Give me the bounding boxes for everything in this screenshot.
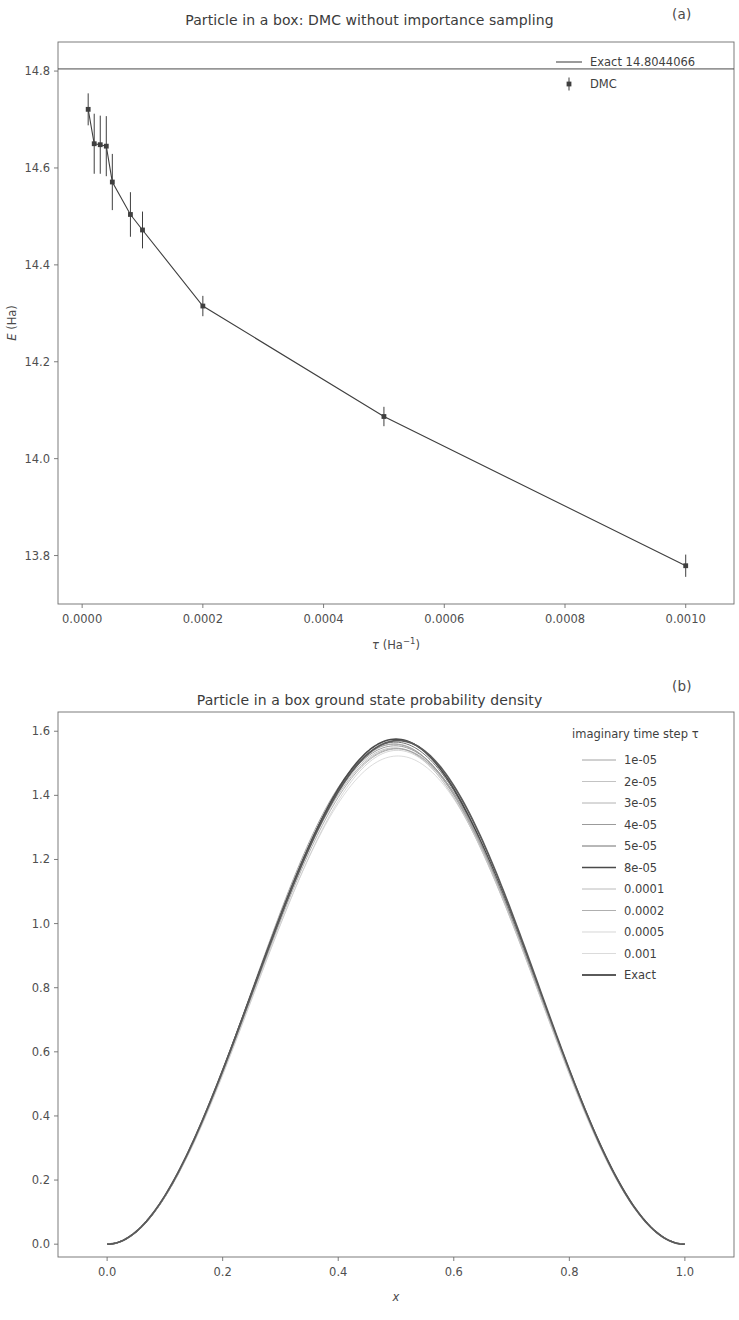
panel-b-curve — [107, 741, 685, 1245]
panel-b-xtick-label: 0.6 — [445, 1265, 463, 1279]
panel-b-curve — [107, 739, 685, 1244]
panel-b-legend-item-label: 8e-05 — [624, 861, 657, 875]
panel-b-legend-item-label: 3e-05 — [624, 796, 657, 810]
panel-b-curve — [107, 744, 685, 1244]
panel-b-ytick-label: 0.8 — [32, 981, 50, 995]
panel-a-xtick-label: 0.0002 — [183, 612, 223, 626]
panel-b-legend-title: imaginary time step τ — [572, 727, 699, 741]
panel-a-datapoint — [104, 116, 109, 176]
panel-b-legend-item-label: Exact — [624, 968, 656, 982]
panel-a-xtick-label: 0.0000 — [62, 612, 102, 626]
panel-b-ytick-label: 1.6 — [32, 724, 50, 738]
panel-b-legend: imaginary time step τ1e-052e-053e-054e-0… — [572, 727, 699, 982]
panel-b-legend-item-label: 0.0005 — [624, 925, 664, 939]
figure-container: (a) Particle in a box: DMC without impor… — [0, 0, 739, 1320]
panel-a-plot: 0.00000.00020.00040.00060.00080.001014.8… — [0, 0, 739, 660]
panel-b-xtick-label: 0.2 — [214, 1265, 232, 1279]
panel-b-ytick-label: 0.6 — [32, 1045, 50, 1059]
panel-b-ytick-label: 0.0 — [32, 1237, 50, 1251]
panel-a-ytick-label: 14.2 — [24, 355, 50, 369]
panel-a-datapoint — [128, 192, 133, 237]
panel-a-yaxis-label: E (Ha) — [5, 305, 19, 341]
panel-b-xtick-label: 1.0 — [676, 1265, 694, 1279]
panel-b-legend-item-label: 0.0001 — [624, 882, 664, 896]
panel-a-datapoint — [683, 555, 688, 577]
panel-a-legend-exact-label: Exact 14.8044066 — [590, 55, 695, 69]
panel-b-legend-item-label: 0.001 — [624, 947, 657, 961]
panel-a-datapoint — [140, 212, 145, 249]
panel-b-curve — [107, 746, 685, 1244]
panel-a-ytick-label: 14.4 — [24, 258, 50, 272]
panel-a-datapoint — [382, 407, 387, 426]
panel-b-ytick-label: 1.2 — [32, 852, 50, 866]
panel-a-xtick-label: 0.0004 — [303, 612, 343, 626]
panel-a-legend: Exact 14.8044066DMC — [556, 55, 695, 91]
panel-b-ytick-label: 1.0 — [32, 917, 50, 931]
panel-a-xtick-label: 0.0010 — [666, 612, 706, 626]
panel-b-curve — [107, 748, 685, 1244]
panel-b-curve — [107, 748, 685, 1244]
panel-b-legend-item-label: 1e-05 — [624, 753, 657, 767]
panel-a-xaxis-label: τ (Ha−1) — [372, 636, 420, 652]
panel-b-legend-item-label: 4e-05 — [624, 818, 657, 832]
panel-b: (b) Particle in a box ground state proba… — [0, 660, 739, 1320]
panel-a-ytick-label: 14.8 — [24, 64, 50, 78]
panel-a-datapoint — [110, 154, 115, 210]
panel-a-datapoint — [200, 296, 205, 316]
panel-b-ytick-label: 0.2 — [32, 1173, 50, 1187]
panel-b-legend-item-label: 2e-05 — [624, 775, 657, 789]
panel-b-xtick-label: 0.4 — [329, 1265, 347, 1279]
panel-a-ytick-label: 14.0 — [24, 452, 50, 466]
panel-a-legend-dmc-label: DMC — [590, 77, 617, 91]
panel-b-legend-item-label: 0.0002 — [624, 904, 664, 918]
panel-b-curve — [107, 744, 685, 1244]
panel-a: (a) Particle in a box: DMC without impor… — [0, 0, 739, 660]
panel-b-xtick-label: 0.0 — [98, 1265, 116, 1279]
panel-b-xtick-label: 0.8 — [560, 1265, 578, 1279]
panel-b-curve — [107, 756, 685, 1244]
panel-b-ytick-label: 1.4 — [32, 788, 50, 802]
panel-b-curve — [107, 742, 685, 1244]
panel-a-ytick-label: 14.6 — [24, 161, 50, 175]
panel-b-curve — [107, 749, 685, 1244]
panel-a-datapoint — [92, 114, 97, 174]
panel-a-datapoint — [98, 116, 103, 174]
panel-a-ytick-label: 13.8 — [24, 549, 50, 563]
panel-b-xaxis-label: x — [392, 1290, 400, 1304]
panel-b-legend-item-label: 5e-05 — [624, 839, 657, 853]
panel-b-ytick-label: 0.4 — [32, 1109, 50, 1123]
panel-a-xtick-label: 0.0008 — [545, 612, 585, 626]
panel-b-plot: 0.00.20.40.60.81.00.00.20.40.60.81.01.21… — [0, 660, 739, 1320]
panel-a-xtick-label: 0.0006 — [424, 612, 464, 626]
